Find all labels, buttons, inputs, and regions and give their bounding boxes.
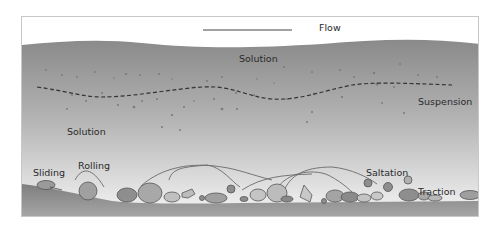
rolling-pebble: [79, 182, 97, 200]
flow-label: Flow: [319, 23, 341, 33]
sliding-pebble: [37, 181, 55, 190]
solution-top-label: Solution: [239, 54, 278, 64]
diagram-frame: Flow Solution Suspension Solution Slidin…: [21, 16, 479, 217]
suspension-label: Suspension: [418, 97, 472, 107]
sliding-label: Sliding: [33, 168, 65, 178]
saltation-label: Saltation: [366, 168, 408, 178]
solution-left-label: Solution: [67, 127, 106, 137]
rolling-label: Rolling: [78, 161, 110, 171]
traction-label: Traction: [418, 187, 456, 197]
sediment-transport-diagram: [22, 17, 479, 217]
